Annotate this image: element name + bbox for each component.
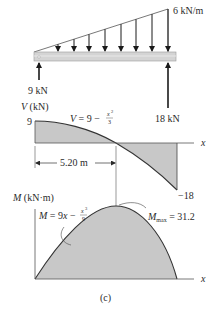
loaded-beam: 6 kN/m 9 kN 18 kN xyxy=(28,5,204,124)
load-envelope-line xyxy=(34,9,168,52)
moment-diagram: M (kN·m) x M = 9x − x 3 9 Mmax = 31.2 xyxy=(12,192,206,284)
right-reaction-label: 18 kN xyxy=(155,113,180,124)
svg-text:2: 2 xyxy=(111,109,113,114)
shear-equation: V = 9 − xyxy=(70,113,100,124)
shear-axis-label: V (kN) xyxy=(21,101,49,113)
zero-crossing-dimension: 5.20 m xyxy=(60,157,88,168)
moment-axis-label: M (kN·m) xyxy=(12,192,54,204)
moment-x-label: x xyxy=(200,273,206,284)
shear-end-value: −18 xyxy=(178,190,194,201)
distributed-load-label: 6 kN/m xyxy=(173,5,204,16)
svg-text:x: x xyxy=(80,208,84,214)
moment-max-label: Mmax = 31.2 xyxy=(147,211,195,223)
svg-text:9: 9 xyxy=(82,216,85,222)
distributed-load-arrows xyxy=(58,9,168,51)
svg-text:x: x xyxy=(106,111,110,117)
moment-equation: M = 9x − xyxy=(38,210,76,221)
shear-x-label: x xyxy=(200,137,206,148)
shear-start-value: 9 xyxy=(27,116,32,127)
left-reaction-label: 9 kN xyxy=(28,85,48,96)
figure-caption: (c) xyxy=(100,292,111,304)
svg-text:3: 3 xyxy=(108,119,111,125)
shear-area-negative xyxy=(116,143,177,190)
shear-area-positive xyxy=(35,121,116,143)
svg-text:3: 3 xyxy=(85,206,88,211)
beam-diagram-figure: 6 kN/m 9 kN 18 kN V (kN) x 9 −18 V = 9 −… xyxy=(0,0,214,312)
